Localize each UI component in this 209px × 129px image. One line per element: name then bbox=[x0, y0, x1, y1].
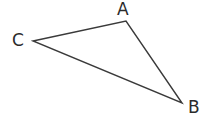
vertex-label-c: C bbox=[12, 32, 24, 49]
vertex-label-b: B bbox=[188, 99, 200, 116]
triangle-outline bbox=[33, 21, 182, 103]
triangle-drawing bbox=[0, 0, 209, 129]
vertex-label-a: A bbox=[117, 1, 129, 18]
geometry-diagram-canvas: A C B bbox=[0, 0, 209, 129]
